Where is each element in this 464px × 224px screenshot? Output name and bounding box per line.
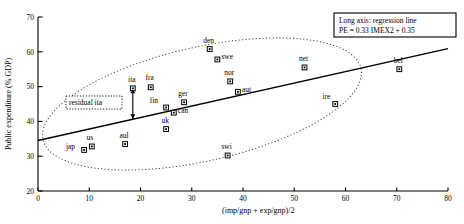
data-point: can [171, 106, 188, 115]
point-marker-center [91, 146, 93, 148]
point-label: can [178, 106, 189, 115]
point-marker-center [83, 149, 85, 151]
y-tick-label: 70 [27, 13, 35, 22]
data-point: net [299, 54, 309, 70]
regression-line [38, 49, 448, 141]
y-tick-label: 30 [27, 152, 35, 161]
data-point: fin [150, 96, 169, 110]
point-marker-center [398, 68, 400, 70]
point-label: ita [128, 75, 136, 84]
data-point: ita [128, 75, 136, 91]
point-label: us [86, 133, 93, 142]
point-label: aut [242, 85, 252, 94]
point-marker-center [227, 155, 229, 157]
x-tick-label: 30 [188, 194, 196, 203]
x-tick-label: 60 [342, 194, 350, 203]
x-tick-label: 0 [36, 194, 40, 203]
x-tick-label: 20 [137, 194, 145, 203]
point-label: ire [322, 92, 331, 101]
point-marker-center [304, 67, 306, 69]
point-label: fra [146, 73, 155, 82]
x-tick-label: 10 [86, 194, 94, 203]
point-marker-center [132, 87, 134, 89]
point-marker-center [334, 103, 336, 105]
data-point: ire [322, 92, 337, 107]
point-label: ger [178, 89, 188, 98]
x-tick-label: 70 [393, 194, 401, 203]
data-point: den [203, 36, 214, 52]
x-tick-label: 50 [291, 194, 299, 203]
chart-root: 203040506070 01020304050607080 Public ex… [0, 0, 464, 224]
point-label: uk [161, 116, 169, 125]
x-axis-ticks: 01020304050607080 [36, 188, 452, 204]
y-tick-label: 50 [27, 82, 35, 91]
data-point: ger [178, 89, 188, 105]
data-point: jap [65, 142, 87, 152]
data-point: us [86, 133, 94, 149]
legend-line-1: Long axis: regression line [339, 16, 417, 25]
point-label: aul [120, 131, 129, 140]
data-point: fra [146, 73, 155, 90]
point-marker-center [237, 91, 239, 93]
point-label: jap [65, 142, 75, 151]
data-point: swe [215, 52, 234, 62]
y-axis-label: Public expenditure (% GDP) [4, 58, 13, 151]
point-label: swi [221, 142, 231, 151]
point-label: swe [221, 52, 233, 61]
point-marker-center [150, 86, 152, 88]
data-point: aut [235, 85, 251, 94]
point-marker-center [183, 101, 185, 103]
data-point: nor [224, 68, 235, 84]
data-point: uk [161, 116, 169, 132]
data-point: bel [394, 56, 403, 72]
scatter-chart: 203040506070 01020304050607080 Public ex… [0, 0, 464, 224]
point-label: bel [394, 56, 403, 65]
y-axis-ticks: 203040506070 [27, 13, 43, 196]
point-marker-center [165, 128, 167, 130]
residual-annotation: residual ita [66, 88, 135, 119]
point-label: nor [224, 68, 235, 77]
point-marker-center [165, 107, 167, 109]
y-tick-label: 40 [27, 117, 35, 126]
point-marker-center [216, 59, 218, 61]
data-point: swi [221, 142, 231, 158]
point-label: den [203, 36, 214, 45]
x-tick-label: 40 [239, 194, 247, 203]
point-label: fin [150, 96, 159, 105]
point-marker-center [209, 48, 211, 50]
residual-label: residual ita [69, 98, 103, 107]
x-axis-label: (imp/gnp + exp/gnp)/2 [222, 206, 295, 215]
data-point: aul [120, 131, 129, 147]
point-marker-center [173, 112, 175, 114]
point-marker-center [124, 143, 126, 145]
point-label: net [299, 54, 309, 63]
legend-line-2: PE = 0.33 IMEX2 + 0.35 [339, 26, 415, 35]
y-tick-label: 20 [27, 187, 35, 196]
y-tick-label: 60 [27, 48, 35, 57]
x-tick-label: 80 [444, 194, 452, 203]
legend-box: Long axis: regression line PE = 0.33 IME… [334, 13, 456, 37]
point-marker-center [229, 80, 231, 82]
